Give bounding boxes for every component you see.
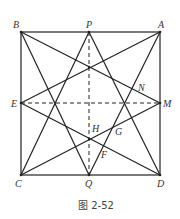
label-m: M [162, 98, 172, 109]
geometry-figure: B P A N E M H G F C Q D 图 2-52 [0, 0, 180, 219]
figure-caption: 图 2-52 [78, 200, 114, 211]
square-abcd [21, 32, 160, 175]
label-d: D [156, 178, 165, 189]
label-e: E [10, 98, 17, 109]
label-a: A [157, 19, 165, 30]
label-g: G [115, 126, 122, 137]
label-n: N [137, 82, 146, 93]
label-b: B [13, 19, 19, 30]
label-c: C [15, 178, 22, 189]
label-f: F [100, 149, 108, 160]
label-p: P [85, 19, 92, 30]
label-h: H [91, 123, 100, 134]
label-q: Q [85, 178, 93, 189]
